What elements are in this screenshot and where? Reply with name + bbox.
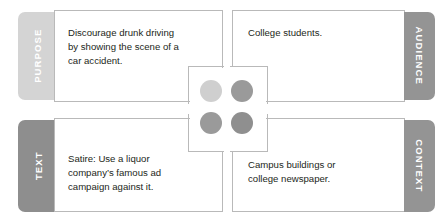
quadrant-context-body: Campus buildings or college newspaper. bbox=[248, 158, 400, 186]
diagram-canvas: PURPOSE Discourage drunk driving by show… bbox=[0, 0, 444, 224]
tab-audience[interactable]: AUDIENCE bbox=[404, 12, 435, 100]
quadrant-audience-body: College students. bbox=[248, 26, 398, 40]
dot-bottom-right bbox=[231, 112, 253, 134]
tab-audience-label: AUDIENCE bbox=[415, 27, 425, 85]
quadrant-purpose-body: Discourage drunk driving by showing the … bbox=[68, 26, 214, 68]
tab-context[interactable]: CONTEXT bbox=[404, 120, 435, 212]
tab-text[interactable]: TEXT bbox=[18, 120, 58, 212]
dot-top-right bbox=[231, 80, 253, 102]
dot-top-left bbox=[200, 80, 222, 102]
quadrant-text-body: Satire: Use a liquor company’s famous ad… bbox=[68, 152, 218, 194]
dot-bottom-left bbox=[200, 112, 222, 134]
tab-purpose-label: PURPOSE bbox=[33, 29, 43, 83]
tab-context-label: CONTEXT bbox=[415, 139, 425, 192]
tab-text-label: TEXT bbox=[33, 152, 43, 181]
tab-purpose[interactable]: PURPOSE bbox=[18, 12, 58, 100]
